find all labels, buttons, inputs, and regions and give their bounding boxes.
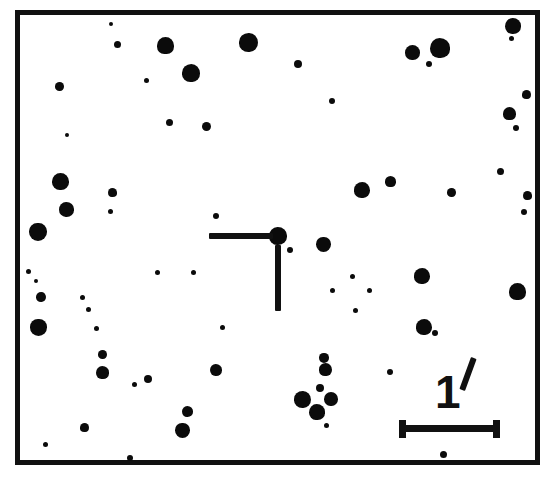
star-point xyxy=(405,45,420,60)
star-point xyxy=(509,36,514,41)
star-point xyxy=(426,61,432,67)
star-point xyxy=(182,64,200,82)
star-point xyxy=(523,191,532,200)
star-point xyxy=(29,223,47,241)
target-marker-horizontal-bar xyxy=(209,233,273,239)
star-point xyxy=(210,364,222,376)
star-point xyxy=(52,173,69,190)
star-point xyxy=(316,237,331,252)
star-point xyxy=(213,213,219,219)
star-point xyxy=(175,423,190,438)
star-field xyxy=(0,0,556,480)
star-point xyxy=(191,270,196,275)
star-point xyxy=(144,375,152,383)
star-point xyxy=(96,366,109,379)
star-point xyxy=(94,326,99,331)
star-point xyxy=(354,182,370,198)
star-point xyxy=(324,423,329,428)
scale-bar-label: 1 xyxy=(435,369,460,415)
star-point xyxy=(350,274,355,279)
star-point xyxy=(114,41,121,48)
star-point xyxy=(55,82,64,91)
star-point xyxy=(503,107,516,120)
star-point xyxy=(513,125,519,131)
star-point xyxy=(108,188,117,197)
target-marker-vertical-bar xyxy=(275,245,281,311)
star-point xyxy=(59,202,74,217)
star-point xyxy=(319,353,329,363)
star-point xyxy=(287,247,293,253)
star-point xyxy=(98,350,107,359)
star-point xyxy=(132,382,137,387)
finder-chart: 1 xyxy=(0,0,556,480)
star-point xyxy=(294,391,311,408)
star-point xyxy=(430,38,450,58)
star-point xyxy=(157,37,174,54)
star-point xyxy=(509,283,526,300)
star-point xyxy=(329,98,335,104)
star-point xyxy=(324,392,338,406)
star-point xyxy=(447,188,456,197)
star-point xyxy=(127,455,133,461)
star-point xyxy=(319,363,332,376)
star-point xyxy=(432,330,438,336)
star-point xyxy=(497,168,504,175)
star-point xyxy=(108,209,113,214)
star-point xyxy=(330,288,335,293)
star-point xyxy=(239,33,258,52)
scale-bar-value: 1 xyxy=(435,366,460,418)
star-point xyxy=(65,133,69,137)
star-point xyxy=(80,423,89,432)
star-point xyxy=(505,18,521,34)
star-point xyxy=(309,404,325,420)
star-point xyxy=(80,295,85,300)
star-point xyxy=(387,369,393,375)
star-point xyxy=(26,269,31,274)
star-point xyxy=(155,270,160,275)
star-point xyxy=(144,78,149,83)
star-point xyxy=(86,307,91,312)
star-point xyxy=(440,451,447,458)
star-point xyxy=(34,279,38,283)
star-point xyxy=(109,22,113,26)
star-point xyxy=(166,119,173,126)
star-point xyxy=(220,325,225,330)
star-point xyxy=(43,442,48,447)
star-point xyxy=(316,384,324,392)
star-point xyxy=(414,268,430,284)
star-point xyxy=(522,90,531,99)
scale-bar-left-cap xyxy=(399,420,406,438)
star-point xyxy=(36,292,46,302)
scale-bar-line xyxy=(399,425,500,432)
star-point xyxy=(182,406,193,417)
star-point xyxy=(294,60,302,68)
scale-bar-right-cap xyxy=(493,420,500,438)
star-point xyxy=(521,209,527,215)
star-point xyxy=(385,176,396,187)
star-point xyxy=(416,319,432,335)
star-point xyxy=(353,308,358,313)
star-point xyxy=(367,288,372,293)
star-point xyxy=(202,122,211,131)
star-point xyxy=(30,319,47,336)
